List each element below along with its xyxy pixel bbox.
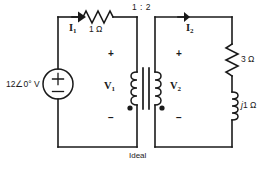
inductor-j1ohm-label-value: 1 Ω bbox=[243, 100, 256, 110]
circuit-diagram: 12∠0° V I1 1 Ω 1 : 2 I2 + V1 − + V2 − 3 … bbox=[0, 0, 274, 172]
inductor-j1ohm-label: j1 Ω bbox=[241, 101, 256, 110]
resistor-1ohm-label: 1 Ω bbox=[89, 25, 102, 34]
transformer-ratio-label: 1 : 2 bbox=[132, 3, 151, 12]
ideal-transformer-caption: Ideal bbox=[129, 152, 146, 160]
resistor-1ohm-symbol bbox=[83, 11, 113, 23]
circuit-schematic-canvas bbox=[0, 0, 274, 172]
v2-minus-sign: − bbox=[176, 113, 182, 123]
transformer-primary-coil bbox=[131, 72, 137, 105]
resistor-3ohm-symbol bbox=[226, 44, 238, 76]
inductor-j1ohm-symbol bbox=[232, 92, 238, 120]
current-label-i2: I2 bbox=[186, 23, 194, 35]
current-arrow-i2-head bbox=[184, 12, 190, 22]
voltage-label-v1: V1 bbox=[104, 81, 115, 93]
voltage-label-v2: V2 bbox=[170, 81, 181, 93]
current-label-i2-subscript: 2 bbox=[190, 27, 194, 35]
voltage-label-v2-text: V bbox=[170, 80, 178, 91]
current-label-i1: I1 bbox=[69, 23, 77, 35]
voltage-source-label: 12∠0° V bbox=[6, 80, 40, 89]
v1-plus-sign: + bbox=[108, 49, 114, 59]
voltage-label-v1-text: V bbox=[104, 80, 112, 91]
voltage-label-v1-subscript: 1 bbox=[112, 85, 116, 93]
transformer-primary-dot bbox=[127, 105, 132, 110]
transformer-secondary-dot bbox=[159, 105, 164, 110]
v2-plus-sign: + bbox=[176, 49, 182, 59]
current-label-i1-subscript: 1 bbox=[73, 27, 77, 35]
resistor-3ohm-label: 3 Ω bbox=[241, 55, 254, 64]
v1-minus-sign: − bbox=[108, 113, 114, 123]
voltage-source-plus-glyph bbox=[53, 74, 64, 85]
transformer-secondary-coil bbox=[155, 72, 161, 105]
voltage-label-v2-subscript: 2 bbox=[178, 85, 182, 93]
